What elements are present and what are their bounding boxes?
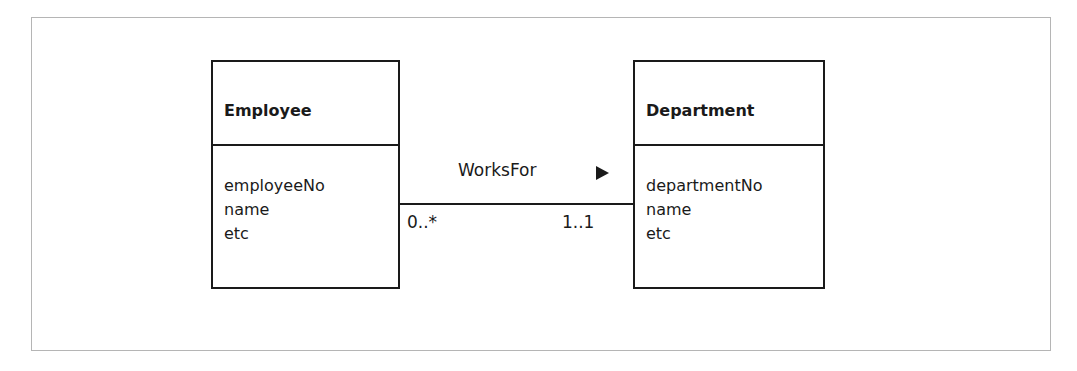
attribute: name	[646, 198, 762, 222]
attribute: name	[224, 198, 325, 222]
entity-name: Employee	[224, 101, 312, 120]
entity-department: Department departmentNo name etc	[633, 60, 825, 289]
attribute: etc	[224, 222, 325, 246]
entity-header: Employee	[213, 62, 398, 146]
diagram-frame	[31, 17, 1051, 351]
entity-attributes: employeeNo name etc	[224, 174, 325, 246]
entity-employee: Employee employeeNo name etc	[211, 60, 400, 289]
relationship-line	[400, 203, 633, 205]
attribute: etc	[646, 222, 762, 246]
source-multiplicity: 0..*	[407, 212, 437, 232]
attribute: departmentNo	[646, 174, 762, 198]
direction-triangle-icon	[596, 166, 609, 180]
entity-attributes: departmentNo name etc	[646, 174, 762, 246]
entity-header: Department	[635, 62, 823, 146]
attribute: employeeNo	[224, 174, 325, 198]
relationship-name: WorksFor	[458, 160, 536, 180]
target-multiplicity: 1..1	[562, 212, 594, 232]
entity-name: Department	[646, 101, 754, 120]
